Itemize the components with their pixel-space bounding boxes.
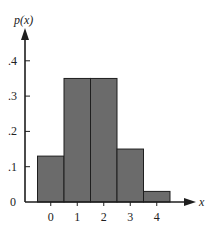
y-axis-ticks: 0.1.2.3.4: [8, 54, 30, 209]
x-tick-label: 2: [101, 210, 107, 224]
bar-2: [91, 78, 118, 202]
x-tick-label: 0: [48, 210, 54, 224]
bar-3: [117, 149, 144, 202]
y-axis-label: p(x): [13, 13, 33, 27]
x-axis-ticks: 01234: [48, 202, 160, 224]
x-tick-label: 4: [154, 210, 160, 224]
bar-4: [144, 191, 171, 202]
bar-0: [38, 156, 65, 202]
y-tick-label: 0: [10, 195, 16, 209]
y-axis-arrow-icon: [21, 28, 29, 40]
x-tick-label: 3: [127, 210, 133, 224]
x-tick-label: 1: [74, 210, 80, 224]
x-axis-label: x: [198, 195, 205, 209]
x-axis-arrow-icon: [184, 198, 196, 206]
y-tick-label: .1: [8, 160, 17, 174]
bar-1: [64, 78, 91, 202]
y-tick-label: .4: [8, 54, 17, 68]
y-tick-label: .3: [8, 89, 17, 103]
bars-group: [38, 78, 171, 202]
histogram-chart: 0.1.2.3.4 01234 p(x) x: [0, 0, 216, 233]
y-tick-label: .2: [8, 124, 17, 138]
